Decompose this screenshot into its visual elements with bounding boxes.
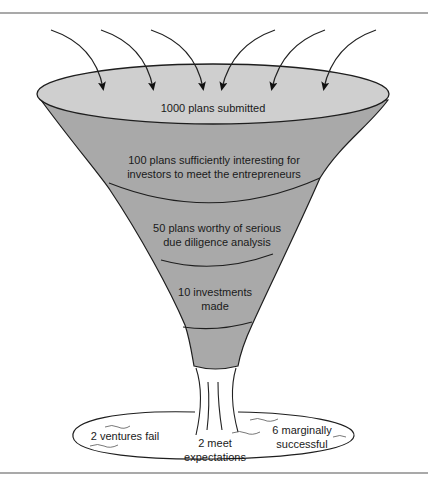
stage-4-line-2: made (178, 299, 252, 313)
stage-4-label: 10 investments made (178, 285, 252, 313)
outcome-marginal-line-2: successful (272, 437, 331, 451)
stage-3-line-2: due diligence analysis (153, 235, 281, 249)
outcome-meet-line-1: 2 meet (184, 436, 246, 450)
outcome-marginal-label: 6 marginally successful (272, 423, 331, 451)
stage-3-label: 50 plans worthy of serious due diligence… (153, 221, 281, 249)
stage-2-label: 100 plans sufficiently interesting for i… (127, 153, 301, 181)
stage-4-line-1: 10 investments (178, 285, 252, 299)
stage-2-line-2: investors to meet the entrepreneurs (127, 167, 301, 181)
stage-1-line-1: 1000 plans submitted (161, 101, 266, 115)
stage-2-line-1: 100 plans sufficiently interesting for (127, 153, 301, 167)
outcome-meet-label: 2 meet expectations (184, 436, 246, 464)
outcome-marginal-line-1: 6 marginally (272, 423, 331, 437)
outcome-meet-line-2: expectations (184, 450, 246, 464)
outflow-streams (196, 368, 238, 435)
funnel-mouth (37, 64, 389, 124)
stage-3-line-1: 50 plans worthy of serious (153, 221, 281, 235)
stage-1-label: 1000 plans submitted (161, 101, 266, 115)
outcome-fail-line-1: 2 ventures fail (91, 429, 159, 443)
outcome-fail-label: 2 ventures fail (91, 429, 159, 443)
